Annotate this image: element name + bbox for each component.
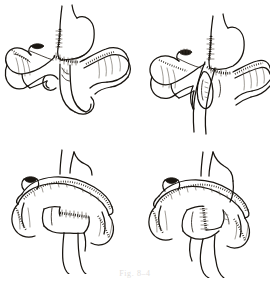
- stomach: [58, 17, 95, 60]
- mesenteric-window: [197, 72, 213, 109]
- transverse-mesocolon-band: [24, 182, 110, 209]
- descending-limb-left: [149, 206, 172, 240]
- ileal-hook: [43, 76, 56, 90]
- upper-limbs: [60, 150, 92, 175]
- efferent-limbs: [63, 233, 86, 274]
- efferent-limb: [60, 64, 94, 114]
- stomach: [209, 27, 244, 69]
- esophagus: [60, 5, 77, 29]
- figure-panel-top-left: [0, 2, 135, 130]
- upper-limbs: [201, 152, 233, 202]
- appendiceal-stump: [22, 177, 39, 190]
- retrocolic-limb: [193, 62, 215, 134]
- figure-panel-top-right: [135, 10, 270, 138]
- descending-limb-right: [227, 215, 249, 248]
- transverse-colon-left: [6, 48, 55, 74]
- entero-enterostomy-suture-line: [60, 210, 89, 219]
- jejunal-loop-left: [5, 65, 58, 89]
- surgical-figure: Fig. 8–4: [0, 0, 270, 281]
- vertical-anastomosis-suture-line: [200, 206, 208, 230]
- figure-panel-bottom-right: [135, 150, 270, 278]
- gastrojejunal-suture-line: [207, 66, 231, 76]
- figure-panel-bottom-left: [0, 146, 135, 274]
- transverse-colon-left: [150, 56, 205, 85]
- anastomosis-detail: [62, 68, 70, 81]
- figure-caption: Fig. 8–4: [0, 269, 270, 278]
- jejunal-loop-left: [151, 77, 194, 98]
- descending-limb-right: [91, 212, 113, 245]
- transverse-colon: [154, 180, 249, 218]
- esophagus: [211, 14, 228, 36]
- descending-limb-left: [12, 203, 35, 237]
